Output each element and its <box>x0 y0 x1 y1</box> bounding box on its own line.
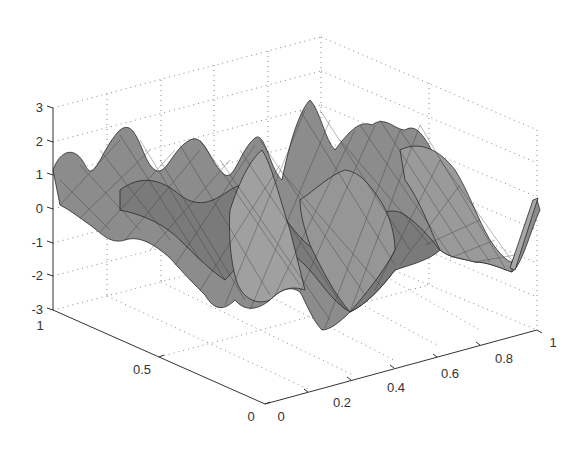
z-tick: 3 <box>36 100 43 115</box>
x-tick: 0.8 <box>495 351 513 366</box>
z-axis-tick-labels: 3 2 1 0 -1 -2 -3 <box>31 100 43 317</box>
edge-spike <box>510 198 538 270</box>
x-tick: 0.6 <box>441 366 459 381</box>
y-axis-tick-labels: 1 0.5 0 <box>36 318 254 424</box>
z-tick: 0 <box>36 201 43 216</box>
z-tick: 1 <box>36 167 43 182</box>
y-tick: 0.5 <box>133 362 151 377</box>
x-axis-tick-labels: 0 0.2 0.4 0.6 0.8 1 <box>277 335 556 424</box>
z-tick: -2 <box>31 268 43 283</box>
x-tick: 0.2 <box>333 395 351 410</box>
x-tick: 1 <box>549 335 556 350</box>
z-tick: -3 <box>31 302 43 317</box>
y-tick: 0 <box>247 409 254 424</box>
z-tick: 2 <box>36 134 43 149</box>
z-tick: -1 <box>31 235 43 250</box>
surface-plot: 3 2 1 0 -1 -2 -3 1 0.5 0 0 0.2 0.4 0.6 0… <box>0 0 573 453</box>
x-tick: 0 <box>277 409 284 424</box>
x-tick: 0.4 <box>387 380 405 395</box>
y-tick: 1 <box>36 318 43 333</box>
